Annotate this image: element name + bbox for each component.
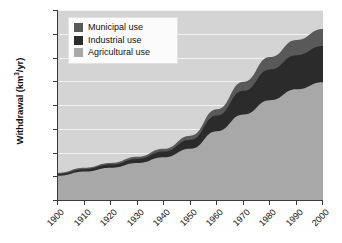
x-tick-label: 1930 <box>117 207 145 235</box>
legend-label: Municipal use <box>88 22 143 33</box>
legend-item: Municipal use <box>74 22 172 33</box>
x-tick-mark <box>57 201 58 205</box>
x-tick-mark <box>269 201 270 205</box>
legend-item: Industrial use <box>74 35 172 46</box>
withdrawal-stacked-area-chart: Withdrawal (km3/yr) 05001000150020002500… <box>0 0 342 243</box>
x-tick-label: 1920 <box>91 207 119 235</box>
legend-swatch-icon <box>74 48 83 57</box>
x-tick-label: 1910 <box>64 207 92 235</box>
legend-swatch-icon <box>74 23 83 32</box>
x-tick-label: 1970 <box>223 207 251 235</box>
legend-label: Industrial use <box>88 35 142 46</box>
x-tick-mark <box>163 201 164 205</box>
x-tick-label: 1960 <box>197 207 225 235</box>
y-axis-title: Withdrawal (km3/yr) <box>13 16 25 186</box>
legend-item: Agricultural use <box>74 47 172 58</box>
x-tick-mark <box>243 201 244 205</box>
x-tick-mark <box>216 201 217 205</box>
x-tick-mark <box>84 201 85 205</box>
x-tick-mark <box>296 201 297 205</box>
x-tick-label: 2000 <box>303 207 331 235</box>
x-tick-mark <box>110 201 111 205</box>
x-tick-label: 1990 <box>276 207 304 235</box>
x-tick-label: 1900 <box>38 207 66 235</box>
x-tick-label: 1980 <box>250 207 278 235</box>
x-tick-label: 1950 <box>170 207 198 235</box>
x-tick-label: 1940 <box>144 207 172 235</box>
x-tick-mark <box>190 201 191 205</box>
legend-label: Agricultural use <box>88 47 150 58</box>
x-tick-mark <box>322 201 323 205</box>
x-tick-mark <box>137 201 138 205</box>
chart-legend: Municipal useIndustrial useAgricultural … <box>68 17 178 64</box>
legend-swatch-icon <box>74 36 83 45</box>
